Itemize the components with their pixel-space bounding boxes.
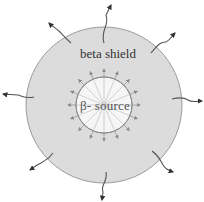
beta-shield-label: beta shield	[80, 46, 136, 62]
beta-shield-diagram: beta shield β- source	[0, 0, 204, 202]
beta-source-label: β- source	[80, 98, 130, 114]
